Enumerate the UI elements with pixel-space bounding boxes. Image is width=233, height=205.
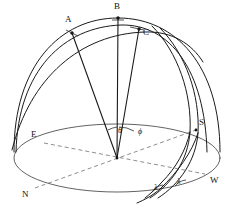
radius-to-a bbox=[72, 33, 117, 158]
tick-mark-a bbox=[66, 30, 78, 36]
point-marker-center bbox=[116, 157, 119, 160]
diagram-canvas bbox=[0, 0, 233, 205]
radius-to-c bbox=[117, 29, 139, 158]
radius-to-b bbox=[117, 18, 118, 158]
label-point-c: C bbox=[143, 28, 149, 37]
celestial-sphere-diagram: A B C E N S W θ ϕ λ λ bbox=[0, 0, 233, 205]
label-angle-lambda-two: λ bbox=[177, 177, 180, 186]
label-angle-lambda-one: λ bbox=[154, 183, 157, 192]
point-marker-b bbox=[116, 16, 119, 19]
point-marker-s bbox=[195, 129, 198, 132]
label-cardinal-south: S bbox=[199, 118, 204, 127]
descending-arc-one bbox=[158, 28, 198, 198]
label-point-b: B bbox=[114, 2, 120, 11]
label-angle-phi: ϕ bbox=[138, 127, 142, 136]
label-cardinal-east: E bbox=[31, 130, 37, 139]
label-cardinal-north: N bbox=[22, 190, 29, 199]
label-point-a: A bbox=[65, 15, 72, 24]
label-angle-theta: θ bbox=[118, 126, 122, 135]
dashed-axis-east-west bbox=[44, 143, 205, 174]
secondary-great-circle-arc bbox=[16, 25, 207, 152]
dashed-axis-north-south bbox=[35, 130, 196, 188]
angle-arc-theta bbox=[108, 127, 117, 130]
label-cardinal-west: W bbox=[210, 176, 219, 185]
